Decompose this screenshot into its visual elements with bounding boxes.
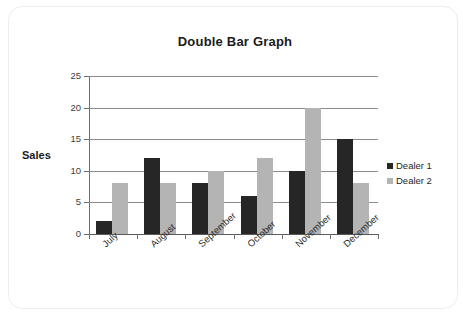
bar-group [282, 76, 330, 234]
x-axis-tick-mark [282, 234, 283, 239]
y-axis-title: Sales [22, 149, 51, 161]
x-axis-tick-mark [330, 234, 331, 239]
y-axis-tick-mark [84, 76, 89, 77]
y-axis-tick-label: 5 [55, 196, 81, 207]
x-axis-tick-mark [89, 234, 90, 239]
legend-item[interactable]: Dealer 1 [387, 158, 432, 173]
y-axis-tick-mark [84, 108, 89, 109]
x-axis-tick-mark [234, 234, 235, 239]
chart-legend: Dealer 1Dealer 2 [387, 158, 432, 188]
bar-group [185, 76, 233, 234]
x-axis-tick-mark [185, 234, 186, 239]
bar-group [330, 76, 378, 234]
x-axis-tick-mark [378, 234, 379, 239]
bar[interactable] [112, 183, 128, 234]
bar-group [234, 76, 282, 234]
legend-item[interactable]: Dealer 2 [387, 173, 432, 188]
bar[interactable] [192, 183, 208, 234]
legend-label: Dealer 1 [396, 160, 432, 171]
y-axis-tick-label: 15 [55, 133, 81, 144]
bar[interactable] [305, 108, 321, 234]
bar[interactable] [144, 158, 160, 234]
bar[interactable] [337, 139, 353, 234]
legend-label: Dealer 2 [396, 175, 432, 186]
y-axis-tick-mark [84, 171, 89, 172]
y-axis-tick-label: 20 [55, 102, 81, 113]
y-axis-tick-mark [84, 139, 89, 140]
y-axis-tick-label: 0 [55, 228, 81, 239]
y-axis-tick-label: 25 [55, 70, 81, 81]
double-bar-chart: Double Bar Graph Sales 0510152025 JulyAu… [0, 0, 467, 317]
bar-group [89, 76, 137, 234]
bar[interactable] [289, 171, 305, 234]
y-axis-tick-mark [84, 202, 89, 203]
chart-title: Double Bar Graph [90, 34, 380, 49]
bar[interactable] [241, 196, 257, 234]
bar-group [137, 76, 185, 234]
plot-area [89, 76, 378, 234]
x-axis-tick-mark [137, 234, 138, 239]
legend-swatch-icon [387, 163, 393, 169]
y-axis-tick-label: 10 [55, 165, 81, 176]
legend-swatch-icon [387, 178, 393, 184]
